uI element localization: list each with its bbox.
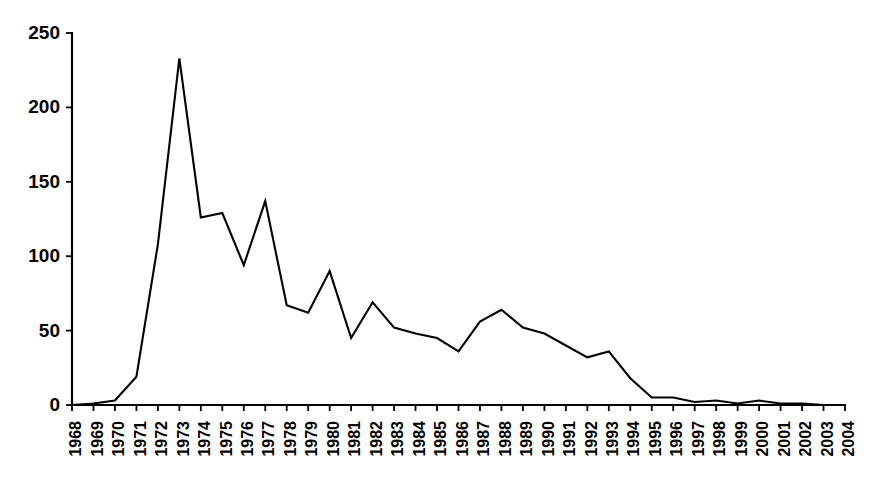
x-axis: 1968196919701971197219731974197519761977… — [67, 405, 857, 457]
x-tick-label: 1978 — [282, 421, 299, 457]
x-tick-label: 1999 — [733, 421, 750, 457]
x-tick-label: 2000 — [754, 421, 771, 457]
x-tick-label: 1971 — [132, 421, 149, 457]
x-tick-label: 1977 — [260, 421, 277, 457]
x-tick-label: 1989 — [518, 421, 535, 457]
x-tick-label: 1974 — [196, 421, 213, 457]
x-tick-label: 1983 — [389, 421, 406, 457]
y-tick-label: 150 — [28, 171, 60, 192]
x-tick-label: 1991 — [561, 421, 578, 457]
x-tick-label: 1997 — [690, 421, 707, 457]
x-tick-label: 1992 — [583, 421, 600, 457]
y-tick-label: 200 — [28, 96, 60, 117]
y-tick-label: 100 — [28, 245, 60, 266]
y-axis-tick-labels: 050100150200250 — [28, 22, 60, 415]
x-tick-label: 2001 — [776, 421, 793, 457]
x-tick-label: 1980 — [325, 421, 342, 457]
x-tick-label: 1969 — [89, 421, 106, 457]
x-tick-label: 1995 — [647, 421, 664, 457]
x-axis-tick-labels: 1968196919701971197219731974197519761977… — [67, 421, 857, 457]
x-tick-label: 1990 — [540, 421, 557, 457]
x-tick-label: 2004 — [840, 421, 857, 457]
y-tick-label: 250 — [28, 22, 60, 43]
x-tick-label: 1976 — [239, 421, 256, 457]
x-tick-label: 1994 — [625, 421, 642, 457]
data-series-line — [72, 58, 845, 405]
x-tick-label: 1968 — [67, 421, 84, 457]
x-tick-label: 1982 — [368, 421, 385, 457]
x-tick-label: 1996 — [668, 421, 685, 457]
plot-area — [72, 58, 845, 405]
x-tick-label: 2002 — [797, 421, 814, 457]
x-tick-label: 1979 — [303, 421, 320, 457]
x-tick-label: 1984 — [411, 421, 428, 457]
x-tick-label: 1975 — [218, 421, 235, 457]
x-tick-label: 1993 — [604, 421, 621, 457]
line-chart-figure: 050100150200250 196819691970197119721973… — [0, 0, 883, 482]
x-tick-label: 1970 — [110, 421, 127, 457]
x-tick-label: 1987 — [475, 421, 492, 457]
x-tick-label: 1998 — [711, 421, 728, 457]
y-tick-label: 0 — [49, 394, 60, 415]
x-tick-label: 1972 — [153, 421, 170, 457]
x-tick-label: 2003 — [819, 421, 836, 457]
x-tick-label: 1985 — [432, 421, 449, 457]
chart-canvas: 050100150200250 196819691970197119721973… — [0, 0, 883, 482]
x-tick-label: 1981 — [346, 421, 363, 457]
y-axis: 050100150200250 — [28, 22, 72, 415]
y-tick-label: 50 — [39, 320, 60, 341]
x-tick-label: 1986 — [454, 421, 471, 457]
x-tick-label: 1988 — [497, 421, 514, 457]
x-tick-label: 1973 — [175, 421, 192, 457]
